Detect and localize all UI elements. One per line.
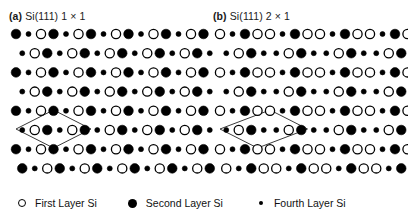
atom-open [186,29,195,38]
atom-open [309,164,318,173]
atom-small [274,89,279,94]
atom-small [139,147,144,152]
atom-open [180,125,189,134]
atom-filled [161,29,171,39]
panel-b-tag: (b) [213,10,227,22]
atom-open [215,106,224,115]
atom-filled [124,144,134,154]
atom-open [186,68,195,77]
atom-open [372,164,381,173]
atom-open [186,145,195,154]
atom-filled [246,87,256,97]
legend-item-first-layer: First Layer Si [16,197,97,209]
atom-small [330,147,335,152]
atom-open [68,125,77,134]
atom-open [30,125,39,134]
atom-open [334,49,343,58]
atom-open [215,145,224,154]
atom-open [359,164,368,173]
atom-small [57,51,62,56]
atom-open [234,87,243,96]
atom-open [365,106,374,115]
panel-b-title: (b) Si(111) 2 × 1 [213,10,290,22]
atom-open [143,87,152,96]
legend-label-fourth-layer: Fourth Layer Si [274,197,346,209]
atom-small [261,128,266,133]
atom-filled [11,106,21,116]
atom-filled [290,106,300,116]
atom-filled [155,87,165,97]
atom-small [280,70,285,75]
atom-filled [17,164,27,174]
atom-open [180,49,189,58]
atom-small [374,128,379,133]
atom-small [139,32,144,37]
atom-filled [240,106,250,116]
atom-small [20,89,25,94]
atom-open [403,68,408,77]
atom-small [311,51,316,56]
panel-a-tag: (a) [9,10,22,22]
atom-open [36,106,45,115]
atom-small [336,166,341,171]
panel-a-lattice [4,26,204,186]
atom-small [132,128,137,133]
atom-open [303,29,312,38]
atom-open [143,125,152,134]
atom-open [353,29,362,38]
atom-open [303,106,312,115]
atom-filled [199,29,209,39]
atom-filled [11,144,21,154]
atom-filled [49,29,59,39]
atom-small [361,89,366,94]
atom-open [353,106,362,115]
atom-small [145,166,150,171]
atom-filled [80,48,90,58]
atom-open [105,125,114,134]
atom-filled [49,68,59,78]
atom-small [132,89,137,94]
atom-small [374,51,379,56]
atom-filled [117,48,127,58]
atom-small [170,89,175,94]
atom-open [315,68,324,77]
atom-filled [42,125,52,135]
atom-open [334,125,343,134]
atom-filled [92,164,102,174]
atom-filled [340,144,350,154]
atom-open [68,49,77,58]
atom-small [361,51,366,56]
atom-open [36,145,45,154]
atom-small [176,147,181,152]
atom-filled [390,144,400,154]
atom-open [30,87,39,96]
atom-small [70,166,75,171]
atom-open [143,49,152,58]
atom-filled [346,48,356,58]
atom-small [224,128,229,133]
atom-open [365,145,374,154]
atom-filled [396,87,406,97]
panel-a-title-text: Si(111) 1 × 1 [25,10,85,22]
atom-small [170,128,175,133]
atom-small [182,166,187,171]
atom-small [95,128,100,133]
atom-small [176,108,181,113]
atom-filled [346,87,356,97]
atom-filled [246,48,256,58]
panel-b-lattice [208,26,408,186]
atom-open [253,106,262,115]
atom-small [230,147,235,152]
atom-filled [86,68,96,78]
atom-small [176,70,181,75]
atom-open [334,87,343,96]
atom-filled [396,125,406,135]
atom-filled [340,68,350,78]
open-circle-icon [16,199,28,208]
atom-filled [199,144,209,154]
atom-small [261,89,266,94]
atom-filled [124,106,134,116]
atom-filled [117,87,127,97]
atom-small [330,70,335,75]
atom-small [280,108,285,113]
